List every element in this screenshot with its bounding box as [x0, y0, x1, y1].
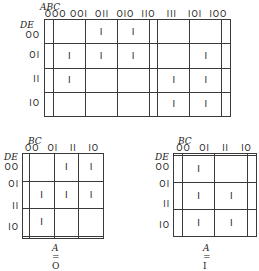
col-header: IO — [84, 145, 105, 153]
cell — [174, 156, 183, 183]
cell — [149, 20, 158, 44]
row-header: OI — [18, 43, 40, 67]
row-headers: OO OI II IO — [18, 19, 40, 116]
col-header: IOO — [207, 11, 230, 19]
cell — [45, 68, 54, 92]
cell — [29, 236, 54, 239]
cell — [45, 92, 54, 116]
cell: I — [53, 68, 85, 92]
col-header: OI — [43, 145, 64, 153]
row-header: II — [151, 195, 170, 216]
cell: I — [79, 154, 104, 182]
column-headers: OOO OOI OII OIO IIO III IOI IOO — [44, 11, 230, 19]
cell — [45, 44, 54, 68]
kmap-grid: I I I I I — [173, 153, 257, 237]
cell: I — [53, 44, 85, 68]
cell — [190, 20, 222, 44]
kmap-grid: I I I I I I I I I — [44, 19, 231, 117]
cell — [215, 156, 248, 183]
cell: I — [29, 209, 54, 237]
cell: I — [79, 181, 104, 209]
row-headers: OO OI II IO — [151, 153, 170, 236]
cell — [174, 183, 183, 210]
caption-value: = O — [52, 252, 60, 271]
col-header: IOI — [184, 11, 207, 19]
row-header: IO — [0, 217, 19, 238]
col-header: IIO — [137, 11, 160, 19]
column-headers: OO OI II IO — [22, 145, 104, 153]
cell — [79, 209, 104, 237]
cell: I — [54, 154, 79, 182]
row-header: OO — [0, 153, 19, 174]
cell — [29, 154, 54, 182]
col-header: II — [63, 145, 84, 153]
cell: I — [117, 20, 149, 44]
cell — [149, 44, 158, 68]
row-header: II — [0, 196, 19, 217]
cell — [222, 68, 231, 92]
col-header: OO — [22, 145, 43, 153]
cell: I — [85, 20, 117, 44]
cell — [53, 20, 85, 44]
cell — [53, 92, 85, 116]
cell: I — [190, 68, 222, 92]
cell: I — [158, 92, 190, 116]
cell — [158, 44, 190, 68]
cell — [54, 209, 79, 237]
cell — [222, 20, 231, 44]
cell — [248, 210, 257, 237]
cell — [248, 156, 257, 183]
cell — [54, 236, 79, 239]
cell — [23, 209, 30, 237]
cell — [79, 236, 104, 239]
cell — [45, 20, 54, 44]
cell: I — [182, 210, 215, 237]
row-header: IO — [18, 92, 40, 116]
cell: I — [85, 44, 117, 68]
cell — [158, 20, 190, 44]
row-header: OO — [18, 19, 40, 43]
cell: I — [54, 181, 79, 209]
cell: I — [190, 92, 222, 116]
map-caption: A = I — [203, 244, 211, 271]
row-header: IO — [151, 215, 170, 236]
cell — [222, 44, 231, 68]
cell: I — [215, 183, 248, 210]
cell: I — [158, 68, 190, 92]
col-header: OI — [194, 145, 215, 153]
row-header: OO — [151, 153, 170, 174]
cell — [23, 236, 30, 239]
col-header: II — [215, 145, 236, 153]
col-header: OO — [173, 145, 194, 153]
cell — [248, 183, 257, 210]
map-caption: A = O — [52, 244, 60, 271]
cell — [117, 68, 149, 92]
cell: I — [190, 44, 222, 68]
col-header: OOI — [67, 11, 90, 19]
cell — [222, 92, 231, 116]
col-header: OOO — [44, 11, 67, 19]
caption-value: = I — [203, 252, 211, 271]
row-header: II — [18, 68, 40, 92]
cell — [117, 92, 149, 116]
cell: I — [215, 210, 248, 237]
row-header: OI — [0, 174, 19, 195]
cell: I — [182, 156, 215, 183]
cell — [23, 154, 30, 182]
kmap-grid: I I I I I I — [22, 153, 104, 239]
column-headers: OO OI II IO — [173, 145, 257, 153]
cell — [149, 92, 158, 116]
cell — [85, 92, 117, 116]
cell — [85, 68, 117, 92]
row-header: OI — [151, 174, 170, 195]
col-header: IO — [236, 145, 257, 153]
cell: I — [29, 181, 54, 209]
cell — [149, 68, 158, 92]
cell — [174, 210, 183, 237]
cell — [23, 181, 30, 209]
cell: I — [182, 183, 215, 210]
cell: I — [117, 44, 149, 68]
col-header: III — [160, 11, 183, 19]
col-header: OIO — [114, 11, 137, 19]
col-header: OII — [91, 11, 114, 19]
